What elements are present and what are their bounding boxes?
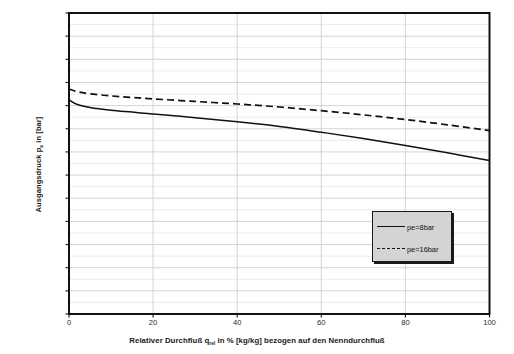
legend-label-1: pe=16bar xyxy=(407,245,438,254)
series-line-1 xyxy=(69,89,490,131)
chart-container: Ausgangsdruck pa in [bar] Relativer Durc… xyxy=(0,0,514,354)
series-line-0 xyxy=(69,100,490,161)
y-axis-title-main: Ausgangsdruck p xyxy=(34,148,43,213)
x-axis-title-tail: in % [kg/kg] bezogen auf den Nenndurchfl… xyxy=(215,336,384,345)
x-tick-label: 100 xyxy=(470,318,510,327)
x-tick-label: 40 xyxy=(217,318,257,327)
x-axis-title: Relativer Durchfluß qrel in % [kg/kg] be… xyxy=(0,336,514,345)
x-tick-label: 20 xyxy=(133,318,173,327)
legend-item-0: pe=8bar xyxy=(373,221,453,233)
legend-label-0: pe=8bar xyxy=(407,223,434,232)
x-tick-label: 0 xyxy=(49,318,89,327)
x-axis-title-subscript: rel xyxy=(209,341,215,346)
legend-key-solid-icon xyxy=(377,222,405,232)
x-tick-label: 60 xyxy=(301,318,341,327)
y-axis-title-subscript: a xyxy=(39,145,44,148)
y-axis-title-tail: in [bar] xyxy=(34,117,43,145)
chart-legend: pe=8bar pe=16bar xyxy=(372,211,452,262)
legend-key-dashed-icon xyxy=(377,244,405,254)
chart-plot-area xyxy=(0,0,514,354)
x-tick-label: 80 xyxy=(385,318,425,327)
x-axis-title-main: Relativer Durchfluß q xyxy=(129,336,209,345)
legend-item-1: pe=16bar xyxy=(373,243,453,255)
y-axis-title: Ausgangsdruck pa in [bar] xyxy=(34,65,43,265)
